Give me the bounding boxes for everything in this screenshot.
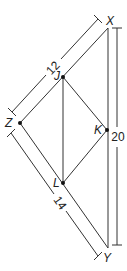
point-z-dot [18,121,22,125]
dimension-line-zy-upper [11,133,54,194]
dimension-label-xy: 20 [111,130,125,144]
dimension-xz: 12 [8,15,102,116]
label-y: Y [103,251,112,265]
dimension-label-zy: 14 [50,194,69,213]
label-j: J [53,69,61,83]
segment-zy [20,123,108,248]
label-l: L [53,176,60,190]
dimension-zy: 14 [7,129,102,260]
segment-kl [63,130,107,183]
label-x: X [105,14,115,28]
dimension-line-zy-lower [66,211,98,256]
dimension-line-xz-upper [61,19,98,59]
label-k: K [94,123,103,137]
point-j-dot [61,75,65,79]
dimension-tick-z-lower [7,129,15,137]
triangle-diagram: 12 14 20 X Z Y J K L [0,0,127,271]
label-z: Z [4,116,13,130]
point-l-dot [61,181,65,185]
point-k-dot [105,128,109,132]
dimension-tick-y [94,252,102,260]
dimension-xy: 20 [111,28,125,245]
dimension-line-xz-lower [12,75,46,112]
